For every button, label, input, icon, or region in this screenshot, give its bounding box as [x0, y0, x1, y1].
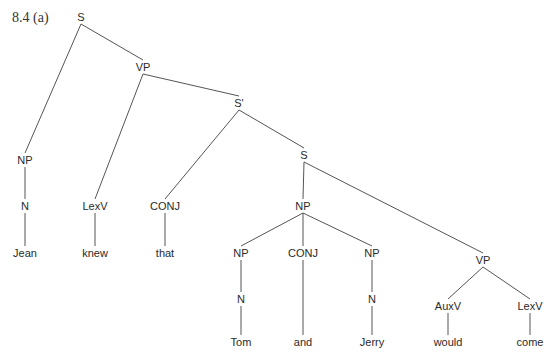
- tree-edge: [143, 74, 239, 96]
- tree-edge: [304, 162, 483, 253]
- tree-edges: [0, 0, 558, 360]
- tree-edge: [303, 213, 372, 246]
- tree-node-vp-main: VP: [136, 62, 151, 73]
- tree-node-w-that: that: [156, 248, 174, 259]
- tree-edge: [303, 162, 304, 199]
- tree-node-w-jean: Jean: [13, 248, 37, 259]
- tree-node-w-come: come: [517, 337, 544, 348]
- tree-node-conj-that: CONJ: [150, 201, 180, 212]
- tree-node-auxv: AuxV: [435, 301, 461, 312]
- tree-node-w-and: and: [294, 337, 312, 348]
- tree-edge: [95, 74, 143, 199]
- tree-node-lexv-come: LexV: [517, 301, 542, 312]
- tree-edge: [448, 267, 483, 299]
- tree-node-np-jerry: NP: [364, 248, 379, 259]
- tree-edge: [81, 24, 143, 60]
- tree-node-w-knew: knew: [82, 248, 108, 259]
- tree-node-vp-emb: VP: [476, 255, 491, 266]
- tree-node-np-jean: NP: [17, 155, 32, 166]
- tree-node-n-jerry: N: [368, 294, 376, 305]
- tree-node-n-jean: N: [21, 201, 29, 212]
- tree-node-np-coord: NP: [295, 201, 310, 212]
- tree-node-s-root: S: [77, 12, 84, 23]
- tree-node-w-jerry: Jerry: [360, 337, 384, 348]
- tree-node-np-tom: NP: [233, 248, 248, 259]
- tree-edge: [165, 110, 239, 199]
- tree-node-w-tom: Tom: [231, 337, 252, 348]
- tree-node-conj-and: CONJ: [288, 248, 318, 259]
- tree-node-sbar: S': [234, 98, 243, 109]
- tree-node-lexv-knew: LexV: [82, 201, 107, 212]
- tree-edge: [239, 110, 304, 148]
- tree-edge: [241, 213, 303, 246]
- tree-node-w-would: would: [434, 337, 463, 348]
- tree-edge: [25, 24, 81, 153]
- tree-node-n-tom: N: [237, 294, 245, 305]
- tree-node-s-emb: S: [300, 150, 307, 161]
- tree-edge: [483, 267, 530, 299]
- syntax-tree: SNPNJeanVPLexVknewS'CONJthatSNPNPNTomCON…: [0, 0, 558, 360]
